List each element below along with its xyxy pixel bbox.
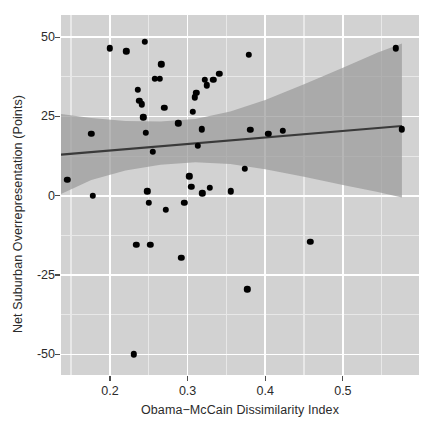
x-tick — [265, 376, 266, 381]
x-tick — [187, 376, 188, 381]
y-tick-label: 25 — [41, 109, 55, 123]
y-tick-label: -50 — [37, 347, 55, 361]
scatter-plot-figure: Net Suburban Overrepresentation (Points)… — [0, 0, 436, 428]
y-tick-label: 50 — [41, 30, 55, 44]
y-tick-label: -25 — [37, 268, 55, 282]
x-tick-label: 0.4 — [257, 384, 274, 398]
y-tick — [55, 274, 60, 275]
x-tick-label: 0.5 — [334, 384, 351, 398]
x-tick-label: 0.2 — [101, 384, 118, 398]
x-tick — [109, 376, 110, 381]
y-tick — [55, 195, 60, 196]
y-tick — [55, 116, 60, 117]
y-tick-label: 0 — [48, 189, 55, 203]
plot-panel — [61, 15, 419, 375]
y-tick — [55, 354, 60, 355]
x-axis-title: Obama−McCain Dissimilarity Index — [61, 403, 419, 417]
regression-line — [61, 15, 419, 375]
y-tick — [55, 37, 60, 38]
y-axis-title: Net Suburban Overrepresentation (Points) — [0, 0, 36, 428]
x-tick-label: 0.3 — [179, 384, 196, 398]
x-tick — [342, 376, 343, 381]
